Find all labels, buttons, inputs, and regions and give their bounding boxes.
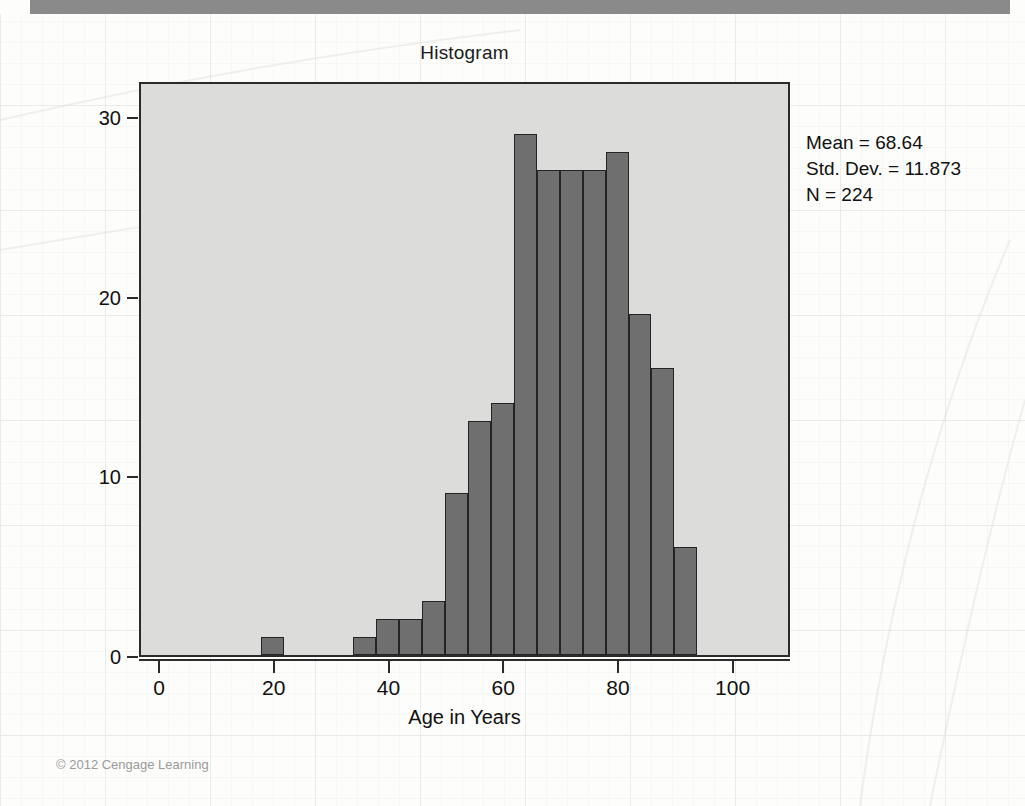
histogram-bar (583, 170, 606, 655)
histogram-bar (606, 152, 629, 655)
x-axis-tick-mark (502, 661, 504, 673)
histogram-bar (629, 314, 652, 655)
histogram-bar (353, 637, 376, 655)
histogram-bar (674, 547, 697, 655)
y-axis-tick-label: 20 (75, 286, 121, 309)
histogram-bar (399, 619, 422, 655)
top-banner-bar (30, 0, 1010, 14)
figure-page: Histogram Frequency 0102030 020406080100… (0, 0, 1025, 806)
y-axis-tick-mark (127, 297, 138, 299)
histogram-bar (651, 368, 674, 656)
histogram-bar (537, 170, 560, 655)
y-axis-tick-label: 0 (75, 646, 121, 669)
x-axis-title: Age in Years (139, 706, 790, 729)
histogram-bar (376, 619, 399, 655)
x-axis-tick-label: 0 (124, 676, 194, 700)
x-axis-tick-mark (617, 661, 619, 673)
x-axis-tick-label: 80 (583, 676, 653, 700)
histogram-bar (560, 170, 583, 655)
histogram-bar (445, 493, 468, 655)
y-axis-tick-mark (127, 656, 138, 658)
y-axis-tick-label: 30 (75, 106, 121, 129)
stat-mean: Mean = 68.64 (806, 130, 961, 156)
chart-title: Histogram (139, 42, 790, 64)
x-axis-tick-label: 60 (468, 676, 538, 700)
x-axis-tick-label: 100 (698, 676, 768, 700)
histogram-bar (422, 601, 445, 655)
x-axis-tick-mark (273, 661, 275, 673)
x-axis-tick-mark (158, 661, 160, 673)
plot-area (139, 82, 790, 657)
histogram-bar (468, 421, 491, 655)
x-axis-tick-label: 20 (239, 676, 309, 700)
y-axis-tick-label: 10 (75, 466, 121, 489)
x-axis-tick-label: 40 (354, 676, 424, 700)
histogram-bar (261, 637, 284, 655)
y-axis-tick-mark (127, 476, 138, 478)
histogram-bar (514, 134, 537, 655)
stat-std-dev: Std. Dev. = 11.873 (806, 156, 961, 182)
copyright-notice: © 2012 Cengage Learning (56, 757, 209, 772)
x-axis-line (139, 659, 790, 661)
x-axis-tick-mark (388, 661, 390, 673)
statistics-annotation: Mean = 68.64 Std. Dev. = 11.873 N = 224 (806, 130, 961, 208)
histogram-bars (141, 84, 788, 655)
histogram-bar (491, 403, 514, 655)
stat-n: N = 224 (806, 182, 961, 208)
x-axis-tick-mark (732, 661, 734, 673)
y-axis-tick-mark (127, 117, 138, 119)
